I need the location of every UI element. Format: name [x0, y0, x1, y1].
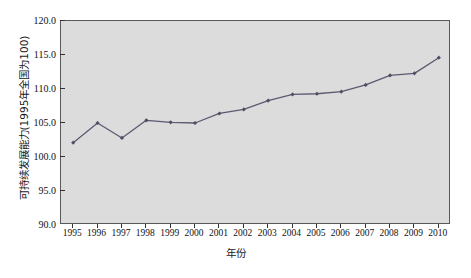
data-point — [290, 92, 294, 96]
x-axis-tick-labels: 1995199619971998199920002001200220032004… — [0, 228, 471, 244]
y-axis-tick-label: 120.0 — [10, 15, 56, 26]
y-axis-tick-mark — [60, 190, 65, 191]
data-point — [266, 98, 270, 102]
y-axis-tick-mark — [60, 156, 65, 157]
y-axis-tick-label: 110.0 — [10, 83, 56, 94]
x-axis-tick-mark — [365, 224, 366, 228]
y-axis-tick-label: 100.0 — [10, 151, 56, 162]
x-axis-tick-mark — [316, 224, 317, 228]
data-point — [339, 90, 343, 94]
y-axis-tick-label: 95.0 — [10, 185, 56, 196]
data-line — [73, 58, 439, 143]
data-point — [364, 83, 368, 87]
y-axis-tick-mark — [60, 54, 65, 55]
x-axis-tick-mark — [218, 224, 219, 228]
data-point — [315, 92, 319, 96]
x-axis-tick-mark — [292, 224, 293, 228]
x-axis-tick-mark — [243, 224, 244, 228]
x-axis-tick-label: 2010 — [418, 228, 458, 238]
plot-area — [60, 20, 450, 224]
y-axis-tick-mark — [60, 88, 65, 89]
x-axis-tick-mark — [121, 224, 122, 228]
data-point — [169, 120, 173, 124]
x-axis-tick-mark — [413, 224, 414, 228]
x-axis-tick-mark — [194, 224, 195, 228]
y-axis-tick-mark — [60, 20, 65, 21]
y-axis-tick-label: 115.0 — [10, 49, 56, 60]
data-point — [242, 107, 246, 111]
x-axis-tick-mark — [340, 224, 341, 228]
x-axis-title: 年份 — [0, 245, 471, 260]
x-axis-tick-mark — [170, 224, 171, 228]
x-axis-tick-mark — [389, 224, 390, 228]
x-axis-tick-mark — [267, 224, 268, 228]
x-axis-tick-mark — [145, 224, 146, 228]
data-point — [217, 111, 221, 115]
data-point — [388, 73, 392, 77]
y-axis-tick-label: 105.0 — [10, 117, 56, 128]
x-axis-tick-mark — [438, 224, 439, 228]
chart-figure: 可持续发展能力(1995年全国为100) 90.095.0100.0105.01… — [0, 0, 471, 278]
data-point — [193, 121, 197, 125]
y-axis-tick-mark — [60, 122, 65, 123]
x-axis-tick-mark — [72, 224, 73, 228]
line-series-svg — [61, 21, 451, 225]
x-axis-tick-mark — [97, 224, 98, 228]
data-point-markers — [71, 56, 441, 145]
